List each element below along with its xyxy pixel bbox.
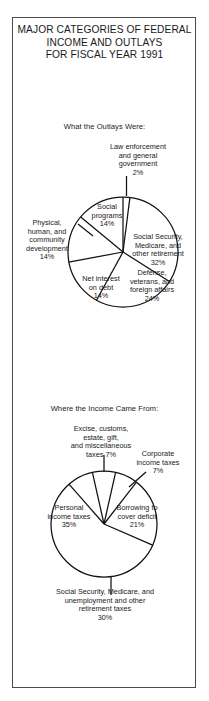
income-label-personal-income-taxes: Personal income taxes 35% — [38, 504, 100, 530]
income-section-heading: Where the Income Came From: — [0, 404, 209, 413]
outlays-label-defense: Defense, veterans, and foreign affairs 2… — [122, 269, 182, 303]
title-line-3: FOR FISCAL YEAR 1991 — [0, 49, 209, 62]
outlays-label-social-security: Social Security, Medicare, and other ret… — [125, 233, 191, 267]
income-label-borrowing: Borrowing to cover deficit 21% — [104, 504, 170, 530]
title-line-1: MAJOR CATEGORIES OF FEDERAL — [0, 24, 209, 37]
title-line-2: INCOME AND OUTLAYS — [0, 37, 209, 50]
income-label-corporate: Corporate income taxes 7% — [127, 450, 189, 476]
outlays-section-heading: What the Outlays Were: — [0, 122, 209, 131]
income-label-social-security-unemployment: Social Security, Medicare, and unemploym… — [30, 588, 180, 622]
outlays-label-physical-human-community: Physical, human, and community developme… — [17, 219, 77, 262]
outlays-label-law-enforcement: Law enforcement and general government 2… — [93, 143, 183, 177]
page-title: MAJOR CATEGORIES OF FEDERAL INCOME AND O… — [0, 24, 209, 62]
outlays-label-social-programs: Social programs 14% — [80, 203, 134, 229]
outlays-label-net-interest: Net interest on debt 14% — [72, 275, 130, 301]
